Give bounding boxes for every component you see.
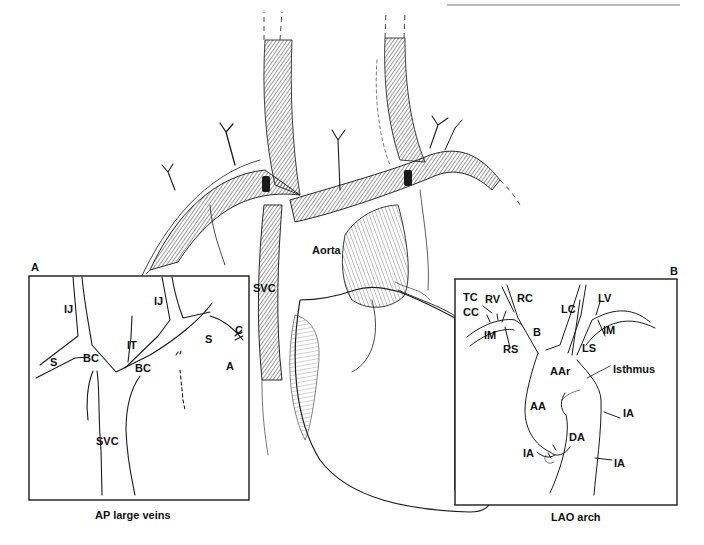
label-ls: LS (582, 342, 596, 354)
label-lv: LV (598, 292, 612, 304)
label-a: A (226, 360, 234, 372)
label-aar: AAr (550, 365, 571, 377)
label-ij-left: IJ (64, 303, 73, 315)
right-jugular-vein (264, 40, 300, 195)
panel-b-letter: B (670, 265, 678, 277)
panel-a-letter: A (31, 261, 39, 273)
label-c: C (235, 324, 243, 336)
label-s-left: S (50, 356, 57, 368)
label-im-left: IM (484, 329, 496, 341)
left-jugular-vein (385, 38, 425, 162)
label-da: DA (569, 431, 585, 443)
label-im-right: IM (603, 324, 615, 336)
label-tc: TC (463, 291, 478, 303)
panel-b: B TC RV RC (455, 265, 678, 523)
label-cc: CC (463, 306, 479, 318)
label-rc: RC (517, 292, 533, 304)
panel-a-box (29, 276, 249, 500)
label-b: B (533, 326, 541, 338)
label-s-right: S (205, 333, 212, 345)
label-bc-left: BC (83, 352, 99, 364)
label-svc-panel-a: SVC (96, 435, 119, 447)
panel-a: A IJ IJ IT S BC BC S C A SVC AP large ve… (29, 261, 249, 521)
label-ia-3: IA (614, 457, 625, 469)
label-rv: RV (485, 293, 501, 305)
label-isthmus: Isthmus (613, 363, 655, 375)
label-aorta: Aorta (312, 244, 342, 256)
label-ij-right: IJ (154, 295, 163, 307)
label-svc-main: SVC (253, 282, 276, 294)
anatomical-figure: Aorta SVC A IJ IJ IT S BC BC S C A (0, 0, 704, 545)
label-lc: LC (561, 303, 576, 315)
label-ia-2: IA (523, 447, 534, 459)
panel-a-caption: AP large veins (95, 509, 171, 521)
label-it: IT (127, 339, 137, 351)
label-aa: AA (530, 400, 546, 412)
label-ia-1: IA (623, 407, 634, 419)
panel-b-caption: LAO arch (551, 511, 601, 523)
label-bc-right: BC (135, 362, 151, 374)
label-rs: RS (503, 343, 518, 355)
